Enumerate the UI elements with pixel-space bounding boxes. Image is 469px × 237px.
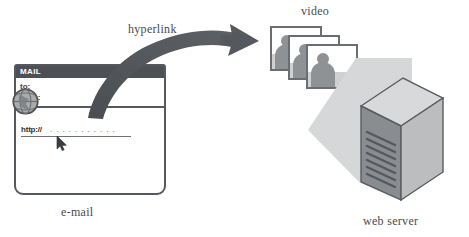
label-video: video <box>301 4 329 19</box>
hyperlink-address-dots: . . . . . . . . . . . <box>50 124 116 135</box>
label-web-server: web server <box>363 214 418 229</box>
email-title-label: MAIL <box>20 68 41 76</box>
hyperlink-arrow-icon <box>84 24 274 119</box>
diagram-canvas: MAIL to: from: http:// . . . . . . . . .… <box>0 0 469 237</box>
label-email: e-mail <box>61 205 93 220</box>
globe-icon <box>12 88 39 115</box>
email-hyperlink[interactable]: http:// . . . . . . . . . . . <box>21 124 131 137</box>
web-server-tower[interactable] <box>355 76 445 211</box>
email-body: http:// . . . . . . . . . . . <box>16 110 164 193</box>
label-hyperlink: hyperlink <box>128 22 177 37</box>
hyperlink-protocol-text: http:// <box>21 124 42 135</box>
mouse-pointer-icon <box>56 136 68 152</box>
